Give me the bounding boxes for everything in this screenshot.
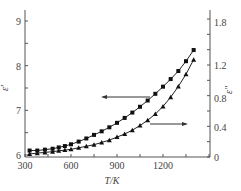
square-marker [69,142,73,146]
series-line-right [30,60,194,154]
square-marker [63,144,67,148]
series-line-left [30,50,194,151]
triangle-marker [184,72,189,77]
square-marker [130,111,134,115]
y-tick-label-right: 0.4 [214,122,227,133]
square-marker [123,116,127,120]
y-tick-label-right: 0 [214,152,219,163]
square-marker [77,140,81,144]
annotations [101,95,188,126]
data-series [27,48,196,156]
axes-frame: 3006009001200678900.40.81.21.8 [16,10,227,171]
triangle-marker [122,132,127,137]
left-arrowhead-icon [101,95,107,99]
square-marker [161,85,165,89]
y-tick-label-left: 8 [16,61,21,72]
chart: 3006009001200678900.40.81.21.8 T/K ε′ ε″ [0,0,241,191]
square-marker [184,59,188,63]
square-marker [92,133,96,137]
y-tick-label-right: 1.2 [214,60,227,71]
square-marker [100,129,104,133]
y-tick-label-left: 6 [16,150,21,161]
square-marker [115,121,119,125]
square-marker [146,99,150,103]
x-tick-label: 900 [110,160,125,171]
square-marker [84,136,88,140]
square-marker [107,125,111,129]
square-marker [192,48,196,52]
x-tick-label: 600 [64,160,79,171]
triangle-marker [191,57,196,62]
y-tick-label-left: 9 [16,16,21,27]
square-marker [169,77,173,81]
square-marker [176,69,180,73]
y-axis-label-left: ε′ [0,84,10,91]
y-tick-label-right: 1.8 [214,17,227,28]
x-tick-label: 1200 [153,160,173,171]
square-marker [138,105,142,109]
y-tick-label-left: 7 [16,105,21,116]
y-axis-label-right: ε″ [223,85,234,94]
right-arrowhead-icon [182,122,188,126]
square-marker [153,92,157,96]
x-tick-label: 300 [18,160,33,171]
x-axis-label: T/K [104,175,120,186]
triangle-marker [176,84,181,89]
triangle-marker [130,128,135,133]
